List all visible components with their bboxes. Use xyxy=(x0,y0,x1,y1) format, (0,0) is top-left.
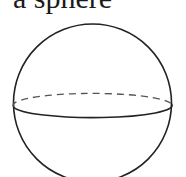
sphere-figure: a sphere xyxy=(0,0,186,177)
sphere-outline xyxy=(14,24,172,177)
sphere-diagram xyxy=(0,0,186,177)
equator-back-dashed xyxy=(13,93,172,107)
equator-front-solid xyxy=(14,104,173,118)
